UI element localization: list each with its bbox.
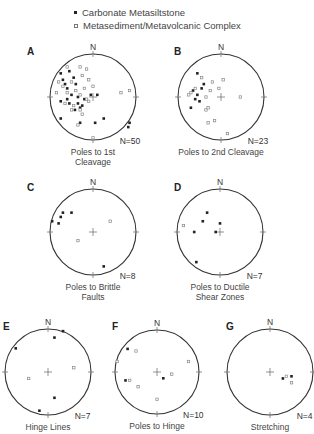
- pole-point-metasediment: [77, 239, 79, 241]
- sample-count: N=23: [248, 136, 269, 146]
- pole-point-metasediment: [128, 89, 130, 91]
- caption-line: Poles to Brittle: [66, 282, 121, 292]
- pole-point-carbonate: [196, 72, 199, 75]
- pole-point-carbonate: [38, 409, 41, 412]
- pole-point-metasediment: [194, 87, 196, 89]
- pole-point-metasediment: [81, 74, 83, 76]
- caption-line: Hinge Lines: [26, 422, 71, 432]
- pole-point-metasediment: [156, 398, 158, 400]
- pole-point-metasediment: [64, 102, 66, 104]
- stereonet-b: BNN=23Poles to 2nd Cleavage: [174, 42, 268, 157]
- pole-point-metasediment: [222, 79, 224, 81]
- pole-point-metasediment: [55, 92, 57, 94]
- pole-point-metasediment: [187, 360, 189, 362]
- pole-point-metasediment: [209, 89, 211, 91]
- north-label: N: [45, 317, 51, 327]
- pole-point-carbonate: [75, 83, 78, 86]
- caption-line: Stretching: [251, 422, 290, 432]
- pole-point-metasediment: [116, 360, 118, 362]
- pole-point-carbonate: [200, 87, 203, 90]
- pole-point-metasediment: [135, 350, 137, 352]
- stereonet-g: GNN=4Stretching: [224, 317, 314, 432]
- pole-point-carbonate: [90, 94, 93, 97]
- pole-point-carbonate: [195, 261, 198, 264]
- pole-point-metasediment: [137, 386, 139, 388]
- pole-point-carbonate: [102, 265, 105, 268]
- pole-point-carbonate: [70, 94, 73, 97]
- pole-point-carbonate: [126, 348, 129, 351]
- caption-line: Poles to Ductile: [190, 282, 249, 292]
- pole-point-metasediment: [85, 68, 87, 70]
- stereonet-e: ENN=7Hinge Lines: [2, 317, 94, 432]
- pole-point-metasediment: [109, 220, 111, 222]
- pole-point-metasediment: [77, 124, 79, 126]
- pole-point-metasediment: [92, 137, 94, 139]
- pole-point-carbonate: [128, 122, 131, 125]
- panel-label: G: [226, 321, 234, 332]
- pole-point-carbonate: [59, 216, 62, 219]
- pole-point-carbonate: [127, 126, 130, 129]
- stereonet-f: FNN=10Poles to Hinge: [112, 318, 204, 431]
- pole-point-metasediment: [218, 87, 220, 89]
- stereonet-d: DNN=7Poles to DuctileShear Zones: [174, 177, 266, 302]
- pole-point-carbonate: [203, 83, 206, 86]
- north-label: N: [154, 318, 160, 328]
- sample-count: N=10: [183, 410, 204, 420]
- north-label: N: [90, 42, 96, 52]
- pole-point-carbonate: [62, 330, 65, 333]
- pole-point-metasediment: [211, 81, 213, 83]
- stereonet-c: CNN=8Poles to BrittleFaults: [27, 177, 139, 302]
- panel-label: F: [112, 321, 118, 332]
- pole-point-carbonate: [68, 70, 71, 73]
- pole-point-carbonate: [96, 94, 99, 97]
- pole-point-metasediment: [285, 375, 287, 377]
- pole-point-carbonate: [53, 397, 56, 400]
- pole-point-metasediment: [200, 76, 202, 78]
- panel-label: C: [27, 182, 34, 193]
- pole-point-carbonate: [290, 375, 293, 378]
- pole-point-metasediment: [57, 81, 59, 83]
- panel-label: B: [174, 46, 181, 57]
- pole-point-metasediment: [70, 109, 72, 111]
- pole-point-carbonate: [70, 211, 73, 214]
- pole-point-carbonate: [194, 98, 197, 101]
- pole-point-metasediment: [182, 224, 184, 226]
- caption-line: Cleavage: [75, 157, 111, 167]
- pole-point-metasediment: [88, 79, 90, 81]
- north-label: N: [217, 177, 223, 187]
- pole-point-carbonate: [53, 336, 56, 339]
- sample-count: N=7: [247, 271, 263, 281]
- pole-point-metasediment: [62, 85, 64, 87]
- caption-line: Poles to Hinge: [129, 421, 185, 431]
- sample-count: N=7: [75, 411, 91, 421]
- pole-point-metasediment: [73, 367, 75, 369]
- pole-point-carbonate: [57, 222, 60, 225]
- pole-point-carbonate: [193, 231, 196, 234]
- pole-point-carbonate: [51, 220, 54, 223]
- pole-point-carbonate: [74, 109, 77, 112]
- pole-point-carbonate: [81, 104, 84, 107]
- pole-point-metasediment: [92, 85, 94, 87]
- caption-line: Shear Zones: [196, 292, 245, 302]
- pole-point-metasediment: [27, 377, 29, 379]
- pole-point-carbonate: [198, 100, 201, 103]
- pole-point-carbonate: [94, 122, 97, 125]
- pole-point-metasediment: [171, 373, 173, 375]
- pole-point-carbonate: [102, 117, 105, 120]
- pole-point-carbonate: [59, 100, 62, 103]
- pole-point-metasediment: [226, 132, 228, 134]
- pole-point-carbonate: [124, 379, 127, 382]
- panel-label: A: [27, 46, 34, 57]
- pole-point-carbonate: [162, 377, 165, 380]
- pole-point-carbonate: [190, 106, 193, 109]
- north-label: N: [218, 42, 224, 52]
- caption-line: Poles to 2nd Cleavage: [178, 147, 264, 157]
- pole-point-carbonate: [72, 76, 75, 79]
- pole-point-carbonate: [196, 94, 199, 97]
- pole-point-carbonate: [62, 79, 65, 82]
- pole-point-metasediment: [66, 92, 68, 94]
- pole-point-metasediment: [129, 379, 131, 381]
- pole-point-metasediment: [79, 94, 81, 96]
- pole-point-metasediment: [75, 89, 77, 91]
- pole-point-metasediment: [213, 119, 215, 121]
